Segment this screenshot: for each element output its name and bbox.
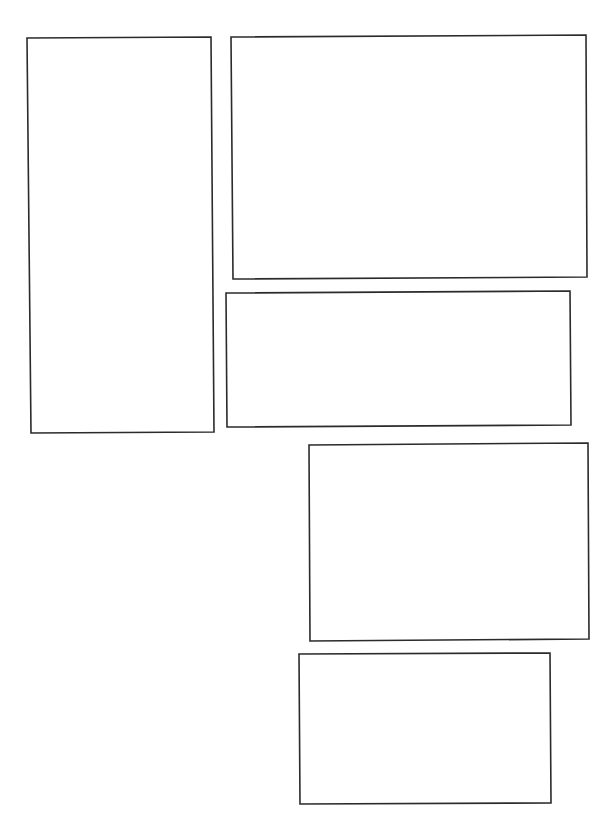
panel-2 — [231, 35, 587, 279]
panel-3 — [226, 291, 571, 427]
comic-page — [0, 0, 616, 828]
panel-5 — [299, 653, 551, 804]
panel-4 — [309, 443, 589, 641]
panel-1 — [27, 37, 214, 433]
